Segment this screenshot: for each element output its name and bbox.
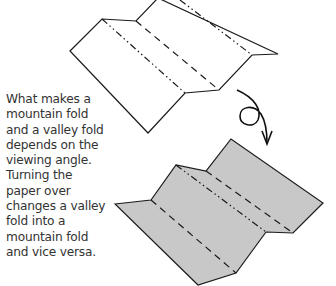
- caption-line: and a valley fold: [6, 123, 124, 138]
- caption-line: Turning the: [6, 168, 124, 183]
- caption-line: fold into a: [6, 214, 124, 229]
- caption-line: and vice versa.: [6, 245, 124, 260]
- caption-line: changes a valley: [6, 199, 124, 214]
- caption-line: What makes a: [6, 92, 124, 107]
- caption-line: mountain fold: [6, 107, 124, 122]
- caption-line: paper over: [6, 184, 124, 199]
- bottom-paper-diagram: [115, 139, 323, 285]
- caption-text: What makes a mountain fold and a valley …: [6, 92, 124, 260]
- caption-line: viewing angle.: [6, 153, 124, 168]
- caption-line: depends on the: [6, 138, 124, 153]
- caption-line: mountain fold: [6, 230, 124, 245]
- turn-over-arrow-icon: [237, 90, 272, 144]
